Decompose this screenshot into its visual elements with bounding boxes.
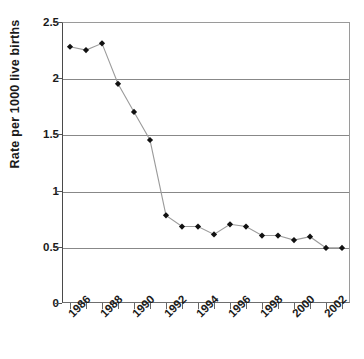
y-axis-tick-mark	[55, 22, 62, 23]
y-axis-tick-label: 1.5	[19, 128, 59, 140]
y-axis-tick-mark	[55, 134, 62, 135]
data-point-marker	[339, 245, 345, 251]
data-point-marker	[147, 137, 153, 143]
data-point-marker	[195, 223, 201, 229]
series-line	[70, 43, 342, 248]
data-point-marker	[227, 221, 233, 227]
data-point-marker	[259, 232, 265, 238]
y-axis-tick-label: 1	[19, 185, 59, 197]
data-point-marker	[99, 40, 105, 46]
data-point-marker	[131, 109, 137, 115]
data-point-marker	[211, 231, 217, 237]
y-axis-tick-label: 0.5	[19, 241, 59, 253]
y-axis-tick-label: 2	[19, 72, 59, 84]
line-chart: Rate per 1000 live births 00.511.522.519…	[0, 0, 364, 359]
y-axis-tick-mark	[55, 78, 62, 79]
data-series-line	[62, 22, 350, 303]
data-point-marker	[83, 47, 89, 53]
data-point-marker	[275, 232, 281, 238]
y-axis-tick-mark	[55, 303, 62, 304]
y-axis-tick-mark	[55, 191, 62, 192]
y-axis-tick-label: 2.5	[19, 16, 59, 28]
y-axis-tick-label: 0	[19, 297, 59, 309]
data-point-marker	[67, 44, 73, 50]
data-point-marker	[243, 223, 249, 229]
y-axis-title: Rate per 1000 live births	[8, 0, 28, 204]
data-point-marker	[115, 81, 121, 87]
y-axis-tick-mark	[55, 247, 62, 248]
data-point-marker	[291, 237, 297, 243]
